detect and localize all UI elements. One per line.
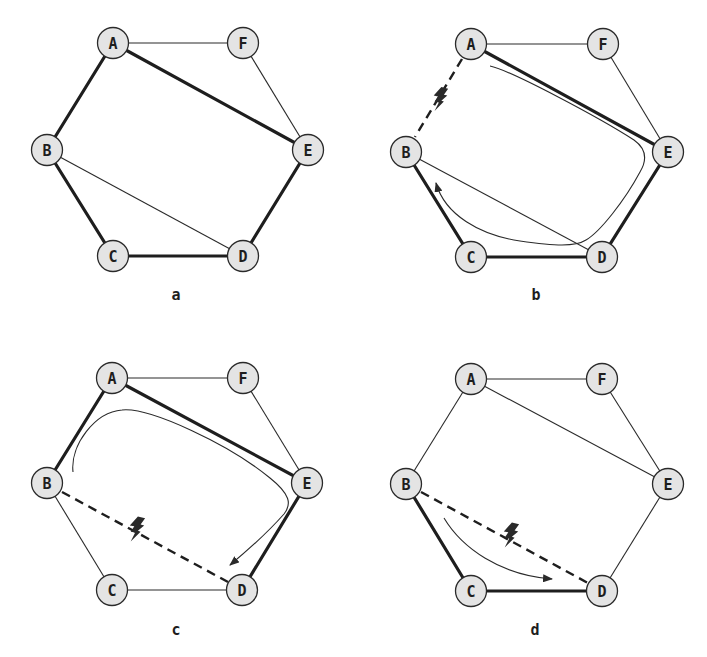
- edge-a-b: [47, 43, 113, 150]
- edge-f-e: [602, 379, 668, 484]
- node-d: D: [227, 575, 258, 606]
- node-b: B: [32, 468, 63, 499]
- svg-text:F: F: [598, 36, 607, 54]
- failed-edge-b-d: [62, 492, 228, 582]
- svg-text:E: E: [663, 144, 672, 162]
- edge-d-e: [243, 150, 308, 256]
- network-failure-diagram: A F B E C D a A F B E C D b: [0, 0, 707, 657]
- edge-b-a: [47, 378, 112, 483]
- link-failure-icon: [434, 87, 448, 111]
- node-b: B: [391, 469, 422, 500]
- svg-text:A: A: [466, 371, 475, 389]
- svg-text:F: F: [597, 371, 606, 389]
- node-a: A: [97, 363, 128, 394]
- svg-text:C: C: [466, 583, 475, 601]
- node-b: B: [32, 135, 63, 166]
- svg-text:D: D: [597, 249, 606, 267]
- panel-caption-b: b: [531, 286, 540, 304]
- svg-text:D: D: [237, 582, 246, 600]
- edge-b-c: [406, 152, 471, 257]
- svg-text:E: E: [302, 475, 311, 493]
- edge-b-d: [406, 152, 602, 257]
- node-c: C: [456, 576, 487, 607]
- panel-caption-c: c: [171, 621, 180, 639]
- node-e: E: [293, 135, 324, 166]
- svg-text:E: E: [303, 142, 312, 160]
- svg-text:D: D: [597, 583, 606, 601]
- node-e: E: [292, 468, 323, 499]
- svg-text:F: F: [238, 370, 247, 388]
- svg-text:F: F: [238, 35, 247, 53]
- reroute-path: [444, 518, 552, 579]
- edge-b-c: [47, 150, 113, 256]
- node-f: F: [228, 363, 259, 394]
- node-a: A: [456, 29, 487, 60]
- svg-text:B: B: [401, 144, 410, 162]
- node-b: B: [391, 137, 422, 168]
- svg-text:B: B: [42, 142, 51, 160]
- svg-text:B: B: [401, 476, 410, 494]
- svg-text:C: C: [466, 249, 475, 267]
- node-c: C: [98, 241, 129, 272]
- svg-text:A: A: [108, 35, 117, 53]
- node-e: E: [653, 469, 684, 500]
- svg-text:C: C: [108, 248, 117, 266]
- reroute-path: [73, 410, 289, 565]
- node-d: D: [228, 241, 259, 272]
- node-c: C: [97, 575, 128, 606]
- node-a: A: [98, 28, 129, 59]
- edge-e-d: [242, 483, 307, 590]
- node-f: F: [588, 29, 619, 60]
- panel-a: A F B E C D a: [32, 28, 324, 305]
- node-f: F: [228, 28, 259, 59]
- node-f: F: [587, 364, 618, 395]
- panel-caption-a: a: [171, 286, 180, 304]
- reroute-path: [436, 66, 645, 245]
- panel-caption-d: d: [530, 621, 539, 639]
- edge-a-e: [471, 379, 668, 484]
- edge-e-d: [602, 484, 668, 591]
- node-d: D: [587, 576, 618, 607]
- svg-text:E: E: [663, 476, 672, 494]
- failed-edge-b-d: [421, 492, 588, 583]
- edge-d-e: [602, 152, 668, 257]
- node-d: D: [587, 242, 618, 273]
- node-c: C: [456, 242, 487, 273]
- edge-b-d: [47, 150, 243, 256]
- panel-c: A F B E C D c: [32, 363, 323, 640]
- edge-a-e: [471, 44, 668, 152]
- svg-text:B: B: [42, 475, 51, 493]
- edge-a-e: [113, 43, 308, 150]
- node-a: A: [456, 364, 487, 395]
- panel-b: A F B E C D b: [391, 29, 684, 305]
- svg-text:D: D: [238, 248, 247, 266]
- edge-b-c: [47, 483, 112, 590]
- panel-d: A F B E C D d: [391, 364, 684, 640]
- svg-text:A: A: [107, 370, 116, 388]
- edge-a-e: [112, 378, 307, 483]
- node-e: E: [653, 137, 684, 168]
- svg-text:A: A: [466, 36, 475, 54]
- edge-b-c: [406, 484, 471, 591]
- svg-text:C: C: [107, 582, 116, 600]
- edge-a-b: [406, 379, 471, 484]
